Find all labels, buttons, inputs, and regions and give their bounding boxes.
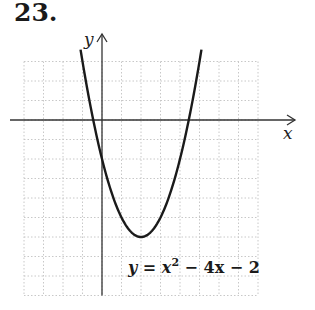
- equation-label: y = x2 − 4x − 2: [127, 256, 260, 277]
- equation-lhs: y = x: [127, 258, 172, 277]
- equation-exponent: 2: [171, 256, 179, 269]
- parabola-plot: x y y = x2 − 4x − 2: [0, 0, 315, 310]
- x-axis-label: x: [283, 123, 293, 143]
- y-axis-label: y: [83, 29, 94, 49]
- equation-rhs: − 4x − 2: [179, 258, 260, 277]
